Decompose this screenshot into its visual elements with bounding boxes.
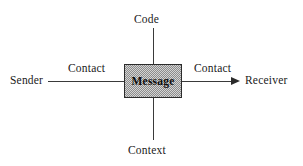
message-box-label: Message bbox=[132, 75, 175, 87]
edge-label-contact-right: Contact bbox=[194, 63, 231, 75]
edge-label-contact-left: Contact bbox=[68, 63, 105, 75]
connector-line-context bbox=[153, 98, 154, 140]
arrow-right-icon bbox=[231, 77, 240, 85]
node-label-receiver: Receiver bbox=[245, 75, 287, 87]
message-box: Message bbox=[124, 64, 182, 98]
connector-line-receiver bbox=[182, 81, 233, 82]
connector-line-sender bbox=[48, 81, 124, 82]
node-label-code: Code bbox=[134, 14, 159, 26]
connector-line-code bbox=[153, 28, 154, 64]
node-label-sender: Sender bbox=[10, 75, 43, 87]
diagram-canvas: Message Code Context Sender Receiver Con… bbox=[0, 0, 303, 166]
node-label-context: Context bbox=[128, 145, 166, 157]
